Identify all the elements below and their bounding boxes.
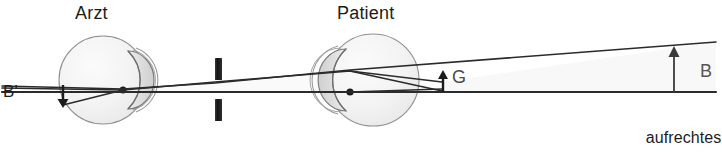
label-image-point-bprime: B' [3, 83, 18, 101]
aperture-bar-upper [215, 58, 222, 80]
caption-line-1: aufrechtes [646, 129, 722, 146]
doctor-eyeball-outline [59, 36, 147, 124]
diagram-canvas [0, 0, 722, 162]
caption-upright-image: aufrechtes Bild [627, 113, 722, 162]
label-patient: Patient [337, 4, 394, 23]
label-object-g: G [452, 68, 466, 87]
doctor-eye-group [59, 36, 158, 124]
patient-eye-group [310, 34, 419, 126]
aperture-bar-lower [215, 99, 222, 121]
label-doctor: Arzt [75, 4, 108, 23]
label-image-size-b: B [700, 62, 712, 81]
ophthalmoscopy-ray-diagram: Arzt Patient B' G B aufrechtes Bild [0, 0, 722, 162]
